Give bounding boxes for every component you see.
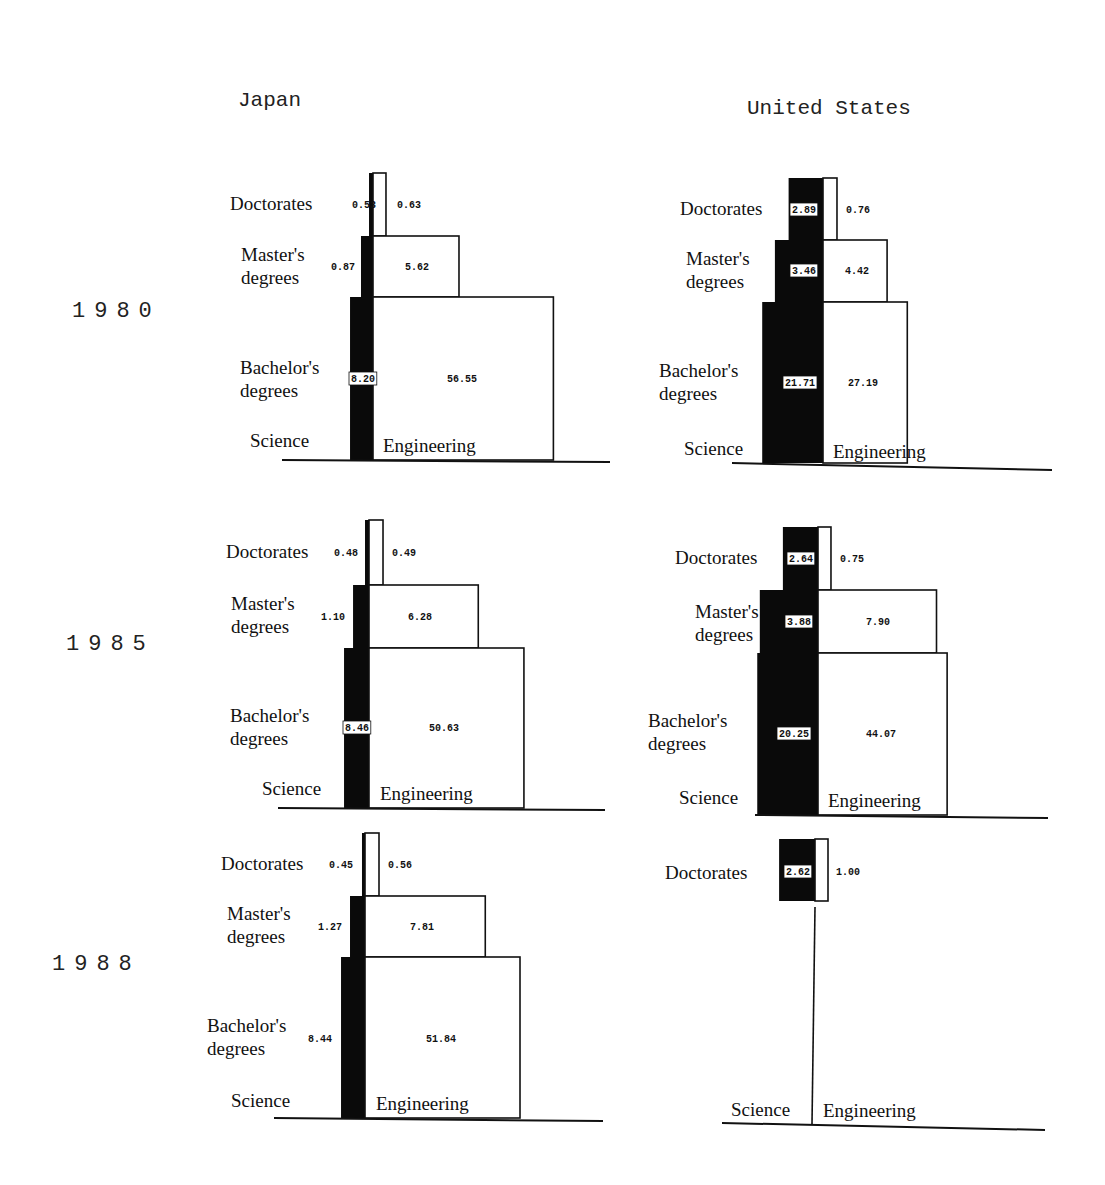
value-label-science-masters: 1.27 [318,922,342,933]
baseline [282,460,610,462]
level-label-bachelors-line2: degrees [648,733,706,754]
value-label-engineering-bachelors: 51.84 [426,1034,456,1045]
value-label-engineering-doctorates: 0.76 [846,205,870,216]
level-label-bachelors-line2: degrees [230,728,288,749]
country-header-united-states: United States [747,97,911,120]
value-label-engineering-masters: 4.42 [845,266,869,277]
level-label-bachelors-line2: degrees [659,383,717,404]
value-label-science-masters: 3.46 [792,266,816,277]
value-label-science-bachelors: 21.71 [785,378,815,389]
panel-united-states-1980: DoctoratesMaster'sdegreesBachelor'sdegre… [659,178,1052,470]
level-label-doctorates: Doctorates [680,198,762,219]
level-label-bachelors-line1: Bachelor's [207,1015,286,1036]
level-label-bachelors-line1: Bachelor's [240,357,319,378]
side-label-engineering: Engineering [833,441,926,462]
side-label-science: Science [231,1090,290,1111]
year-label-1985: 1985 [66,632,155,657]
value-label-engineering-doctorates: 0.49 [392,548,416,559]
side-label-engineering: Engineering [383,435,476,456]
level-label-masters-line2: degrees [695,624,753,645]
value-label-science-masters: 0.87 [331,262,355,273]
level-label-doctorates: Doctorates [230,193,312,214]
level-label-doctorates: Doctorates [665,862,747,883]
bar-science-masters [361,236,373,297]
level-label-bachelors-line2: degrees [240,380,298,401]
panel-japan-1985: DoctoratesMaster'sdegreesBachelor'sdegre… [226,520,605,810]
level-label-masters-line1: Master's [227,903,291,924]
level-label-doctorates: Doctorates [221,853,303,874]
value-label-engineering-bachelors: 44.07 [866,729,896,740]
value-label-science-doctorates: 2.62 [786,867,810,878]
level-label-masters-line2: degrees [241,267,299,288]
side-label-science: Science [250,430,309,451]
country-header-japan: Japan [238,89,301,112]
value-label-science-bachelors: 8.46 [345,723,369,734]
baseline [732,463,1052,470]
level-label-masters-line1: Master's [686,248,750,269]
value-label-science-doctorates: 2.64 [789,554,813,565]
baseline [722,1123,1045,1130]
side-label-engineering: Engineering [828,790,921,811]
bar-engineering-doctorates [823,178,837,240]
level-label-masters-line2: degrees [231,616,289,637]
level-label-masters-line1: Master's [695,601,759,622]
value-label-engineering-bachelors: 27.19 [848,378,878,389]
panel-united-states-1988: DoctoratesScienceEngineering2.621.00 [665,839,1045,1130]
bar-engineering-doctorates [818,527,831,590]
level-label-doctorates: Doctorates [226,541,308,562]
year-label-1988: 1988 [52,952,141,977]
baseline [278,808,605,810]
panel-japan-1988: DoctoratesMaster'sdegreesBachelor'sdegre… [207,833,603,1121]
level-label-doctorates: Doctorates [675,547,757,568]
panel-japan-1980: DoctoratesMaster'sdegreesBachelor'sdegre… [230,173,610,462]
bar-science-masters [353,585,369,648]
value-label-science-masters: 3.88 [787,617,811,628]
side-label-engineering: Engineering [823,1100,916,1121]
degree-comparison-chart: Japan United States 1980 1985 1988 Docto… [0,0,1105,1185]
side-label-science: Science [262,778,321,799]
bar-engineering-doctorates [365,833,379,896]
value-label-engineering-doctorates: 0.56 [388,860,412,871]
value-label-science-doctorates: 0.48 [334,548,358,559]
value-label-science-bachelors: 8.44 [308,1034,332,1045]
value-label-engineering-masters: 5.62 [405,262,429,273]
value-label-science-bachelors: 8.20 [351,374,375,385]
level-label-bachelors-line2: degrees [207,1038,265,1059]
side-label-engineering: Engineering [376,1093,469,1114]
panels-group: DoctoratesMaster'sdegreesBachelor'sdegre… [207,173,1052,1130]
value-label-science-doctorates: 0.53 [352,200,376,211]
value-label-engineering-masters: 6.28 [408,612,432,623]
level-label-masters-line2: degrees [227,926,285,947]
value-label-engineering-doctorates: 0.63 [397,200,421,211]
value-label-engineering-doctorates: 1.00 [836,867,860,878]
bar-engineering-doctorates [815,839,828,901]
bar-engineering-doctorates [369,520,383,585]
side-label-science: Science [731,1099,790,1120]
value-label-science-doctorates: 2.89 [792,205,816,216]
level-label-masters-line1: Master's [241,244,305,265]
side-label-science: Science [684,438,743,459]
panel-united-states-1985: DoctoratesMaster'sdegreesBachelor'sdegre… [648,527,1048,818]
value-label-engineering-bachelors: 50.63 [429,723,459,734]
bar-science-bachelors [341,957,365,1118]
center-axis-line [812,907,815,1124]
value-label-engineering-bachelors: 56.55 [447,374,477,385]
bar-science-masters [350,896,365,957]
value-label-science-doctorates: 0.45 [329,860,353,871]
side-label-engineering: Engineering [380,783,473,804]
side-label-science: Science [679,787,738,808]
value-label-science-bachelors: 20.25 [779,729,809,740]
level-label-bachelors-line1: Bachelor's [230,705,309,726]
year-label-1980: 1980 [72,299,161,324]
value-label-science-masters: 1.10 [321,612,345,623]
level-label-bachelors-line1: Bachelor's [648,710,727,731]
value-label-engineering-doctorates: 0.75 [840,554,864,565]
value-label-engineering-masters: 7.90 [866,617,890,628]
level-label-masters-line2: degrees [686,271,744,292]
level-label-bachelors-line1: Bachelor's [659,360,738,381]
level-label-masters-line1: Master's [231,593,295,614]
value-label-engineering-masters: 7.81 [410,922,434,933]
